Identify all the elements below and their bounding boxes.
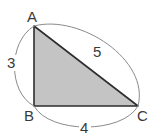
- vertex-label-c: C: [137, 107, 148, 124]
- triangle-abc: [34, 26, 138, 106]
- triangle-diagram: A B C 3 4 5: [0, 0, 153, 138]
- side-label-bc: 4: [80, 119, 88, 136]
- vertex-label-b: B: [24, 107, 34, 124]
- side-label-ac: 5: [93, 43, 101, 60]
- vertex-label-a: A: [27, 8, 37, 25]
- side-label-ab: 3: [7, 54, 15, 71]
